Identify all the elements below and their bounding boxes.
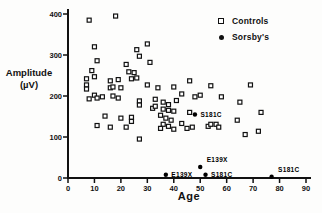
control-point bbox=[137, 99, 141, 103]
control-point bbox=[103, 114, 107, 118]
x-tick-label: 30 bbox=[143, 184, 151, 193]
sorsby-point-label: S181C bbox=[278, 166, 299, 173]
control-point bbox=[159, 113, 163, 117]
control-point bbox=[166, 103, 170, 107]
sorsby-point-label: E139X bbox=[207, 156, 228, 163]
control-point bbox=[219, 95, 223, 99]
control-point bbox=[169, 118, 173, 122]
open-square-marker-icon bbox=[218, 18, 224, 24]
control-point bbox=[209, 84, 213, 88]
y-tick-label: 0 bbox=[58, 174, 62, 183]
y-axis-title-line1: Amplitude bbox=[2, 67, 56, 79]
control-point bbox=[161, 107, 165, 111]
y-tick-label: 200 bbox=[49, 92, 62, 101]
control-point bbox=[95, 124, 99, 128]
control-point bbox=[172, 127, 176, 131]
sorsby-point-label: E139X bbox=[171, 171, 192, 178]
control-point bbox=[95, 96, 99, 100]
x-tick-label: 70 bbox=[249, 184, 257, 193]
control-point bbox=[209, 122, 213, 126]
legend-item-controls: Controls bbox=[218, 16, 269, 26]
control-point bbox=[124, 125, 128, 129]
control-point bbox=[108, 125, 112, 129]
sorsby-point bbox=[198, 165, 202, 169]
control-point bbox=[164, 116, 168, 120]
control-point bbox=[129, 115, 133, 119]
control-point bbox=[90, 69, 94, 73]
control-point bbox=[238, 100, 242, 104]
control-point bbox=[217, 125, 221, 129]
control-point bbox=[92, 75, 96, 79]
control-point bbox=[85, 87, 89, 91]
control-point bbox=[137, 137, 141, 141]
legend-label-controls: Controls bbox=[232, 16, 269, 26]
control-point bbox=[111, 85, 115, 89]
control-point bbox=[180, 92, 184, 96]
y-tick-label: 400 bbox=[49, 10, 62, 19]
x-axis-title: Age bbox=[168, 190, 210, 202]
control-point bbox=[172, 85, 176, 89]
control-point bbox=[95, 59, 99, 63]
control-point bbox=[119, 116, 123, 120]
control-point bbox=[172, 109, 176, 113]
control-point bbox=[119, 86, 123, 90]
control-point bbox=[188, 110, 192, 114]
control-point bbox=[137, 54, 141, 58]
sorsby-point-label: S181C bbox=[200, 111, 221, 118]
legend-item-sorsbys: Sorsby's bbox=[218, 32, 269, 42]
control-point bbox=[137, 103, 141, 107]
sorsby-point bbox=[269, 175, 273, 179]
control-point bbox=[87, 18, 91, 22]
y-tick-label: 300 bbox=[49, 51, 62, 60]
control-point bbox=[116, 96, 120, 100]
control-point bbox=[190, 125, 194, 129]
control-point bbox=[174, 99, 178, 103]
control-point bbox=[235, 118, 239, 122]
x-tick-label: 20 bbox=[117, 184, 125, 193]
control-point bbox=[153, 97, 157, 101]
control-point bbox=[180, 121, 184, 125]
control-point bbox=[159, 126, 163, 130]
sorsby-point bbox=[164, 173, 168, 177]
y-axis-title-line2: (µV) bbox=[2, 79, 56, 91]
plot-canvas: 01002003004000102030405060708090E139XE13… bbox=[0, 0, 322, 213]
control-point bbox=[161, 122, 165, 126]
x-tick-label: 0 bbox=[66, 184, 70, 193]
control-point bbox=[161, 100, 165, 104]
control-point bbox=[92, 45, 96, 49]
filled-circle-marker-icon bbox=[219, 35, 224, 40]
y-tick-label: 100 bbox=[49, 133, 62, 142]
control-point bbox=[198, 93, 202, 97]
y-axis-title: Amplitude (µV) bbox=[2, 67, 56, 91]
control-point bbox=[108, 79, 112, 83]
control-point bbox=[135, 76, 139, 80]
control-point bbox=[145, 42, 149, 46]
sorsby-point bbox=[193, 112, 197, 116]
control-point bbox=[256, 129, 260, 133]
legend-label-sorsbys: Sorsby's bbox=[232, 32, 269, 42]
control-point bbox=[129, 77, 133, 81]
control-point bbox=[111, 94, 115, 98]
control-point bbox=[166, 124, 170, 128]
x-tick-label: 60 bbox=[222, 184, 230, 193]
control-point bbox=[185, 126, 189, 130]
x-tick-label: 90 bbox=[302, 184, 310, 193]
control-point bbox=[243, 133, 247, 137]
control-point bbox=[132, 71, 136, 75]
sorsby-point bbox=[203, 173, 207, 177]
legend: Controls Sorsby's bbox=[218, 16, 269, 48]
control-point bbox=[135, 48, 139, 52]
control-point bbox=[85, 77, 89, 81]
x-tick-label: 10 bbox=[90, 184, 98, 193]
control-point bbox=[116, 78, 120, 82]
control-point bbox=[193, 95, 197, 99]
control-point bbox=[127, 70, 131, 74]
control-point bbox=[124, 62, 128, 66]
control-point bbox=[145, 83, 149, 87]
control-point bbox=[188, 79, 192, 83]
control-point bbox=[248, 83, 252, 87]
x-tick-label: 80 bbox=[275, 184, 283, 193]
sorsby-point-label: S181C bbox=[211, 171, 232, 178]
control-point bbox=[85, 83, 89, 87]
control-point bbox=[259, 110, 263, 114]
